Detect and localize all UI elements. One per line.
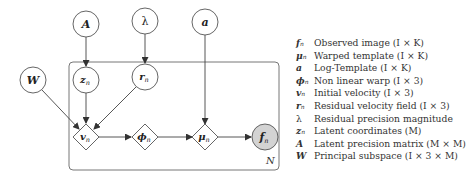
legend-row-lambda: λResidual precision magnitude — [296, 113, 466, 126]
legend-row-z: znLatent coordinates (M) — [296, 125, 466, 138]
legend-row-A: ALatent precision matrix (M × M) — [296, 138, 466, 151]
legend-description: Initial velocity (I × 3) — [314, 87, 414, 100]
legend-symbol: vn — [296, 87, 314, 100]
legend-description: Residual velocity field (I × 3) — [314, 100, 450, 113]
graphical-model: N A λ a W zn rn vn ϕn μn fn — [0, 0, 296, 178]
legend-symbol: zn — [296, 125, 314, 138]
legend: fnObserved image (I × K) μnWarped templa… — [296, 37, 466, 163]
legend-symbol: W — [296, 150, 314, 163]
legend-description: Log-Template (I × K) — [314, 62, 411, 75]
edge-r-v — [94, 87, 136, 129]
plate-label: N — [265, 155, 276, 166]
legend-row-W: WPrincipal subspace (I × 3 × M) — [296, 150, 466, 163]
legend-row-a: aLog-Template (I × K) — [296, 62, 466, 75]
legend-row-v: vnInitial velocity (I × 3) — [296, 87, 466, 100]
legend-symbol: a — [296, 62, 314, 75]
plate-n — [69, 62, 279, 170]
legend-symbol: A — [296, 138, 314, 151]
legend-description: Latent coordinates (M) — [314, 125, 421, 138]
legend-symbol: ϕn — [296, 75, 314, 88]
legend-row-f: fnObserved image (I × K) — [296, 37, 466, 50]
label-W: W — [27, 74, 41, 87]
legend-row-r: rnResidual velocity field (I × 3) — [296, 100, 466, 113]
legend-row-mu: μnWarped template (I × K) — [296, 50, 466, 63]
legend-description: Residual precision magnitude — [314, 113, 453, 126]
legend-description: Non linear warp (I × 3) — [314, 75, 423, 88]
legend-symbol: λ — [296, 113, 314, 126]
legend-symbol: rn — [296, 100, 314, 113]
legend-description: Observed image (I × K) — [314, 37, 424, 50]
legend-symbol: fn — [296, 37, 314, 50]
edge-W-v — [42, 90, 79, 129]
label-lambda: λ — [142, 15, 149, 28]
label-a: a — [201, 16, 208, 29]
label-A: A — [81, 18, 91, 31]
legend-symbol: μn — [296, 50, 314, 63]
legend-row-phi: ϕnNon linear warp (I × 3) — [296, 75, 466, 88]
legend-description: Latent precision matrix (M × M) — [314, 138, 466, 151]
legend-description: Warped template (I × K) — [314, 50, 428, 63]
legend-description: Principal subspace (I × 3 × M) — [314, 150, 458, 163]
